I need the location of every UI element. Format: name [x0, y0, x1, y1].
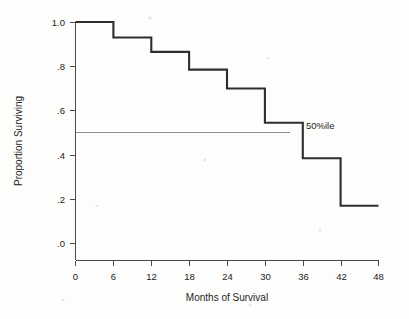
x-tick-label: 24: [222, 271, 233, 282]
x-tick-label: 6: [111, 271, 116, 282]
y-tick-label: .8: [57, 61, 65, 72]
scan-artifacts: [62, 16, 322, 306]
y-axis-tick-labels: 1.0 .8 .6 .4 .2 .0: [52, 17, 65, 249]
y-tick-label: 1.0: [52, 17, 65, 28]
kaplan-meier-plot: 1.0 .8 .6 .4 .2 .0 0 6 12 18 24 30: [0, 0, 409, 319]
x-tick-label: 36: [298, 271, 309, 282]
survival-chart-figure: 1.0 .8 .6 .4 .2 .0 0 6 12 18 24 30: [0, 0, 409, 319]
y-axis-title: Proportion Surviving: [13, 96, 24, 186]
x-tick-label: 12: [146, 271, 157, 282]
x-tick-label: 0: [73, 271, 78, 282]
y-tick-label: .2: [57, 194, 65, 205]
x-tick-label: 30: [260, 271, 271, 282]
survival-step-curve: [76, 22, 379, 206]
x-axis-title: Months of Survival: [186, 292, 268, 303]
x-axis-ticks: [76, 261, 379, 267]
x-tick-label: 48: [373, 271, 384, 282]
y-axis-ticks: [70, 23, 76, 244]
x-tick-label: 42: [336, 271, 347, 282]
x-tick-label: 18: [184, 271, 195, 282]
y-tick-label: .6: [57, 105, 65, 116]
y-tick-label: .0: [57, 238, 65, 249]
y-tick-label: .4: [57, 150, 65, 161]
median-reference-label: 50%ile: [306, 120, 335, 131]
x-axis-tick-labels: 0 6 12 18 24 30 36 42 48: [73, 271, 384, 282]
